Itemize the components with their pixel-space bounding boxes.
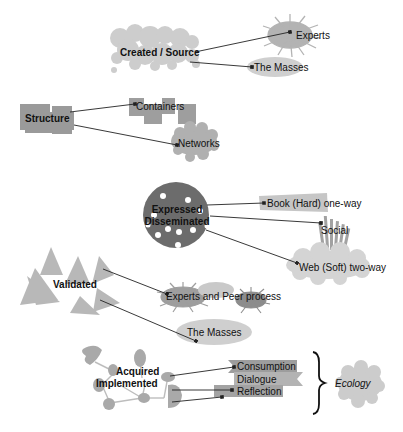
acquired-label: Acquired bbox=[116, 366, 159, 377]
ecology-brace bbox=[313, 352, 325, 414]
reflection-label: Reflection bbox=[237, 386, 281, 397]
web-label: Web (Soft) two-way bbox=[299, 262, 386, 273]
containers-label: Containers bbox=[136, 101, 184, 112]
disseminated-label: Disseminated bbox=[143, 216, 211, 227]
expressed-disseminated-circle bbox=[143, 182, 210, 248]
networks-label: Networks bbox=[178, 138, 220, 149]
ecology-label: Ecology bbox=[335, 378, 371, 389]
structure-label: Structure bbox=[25, 113, 69, 124]
the-masses-label-top: The Masses bbox=[254, 62, 308, 73]
dialogue-label: Dialogue bbox=[237, 374, 276, 385]
experts-peer-label: Experts and Peer process bbox=[166, 291, 281, 302]
social-label: Social bbox=[321, 225, 348, 236]
book-label: Book (Hard) one-way bbox=[267, 198, 361, 209]
created-source-label: Created / Source bbox=[120, 47, 199, 58]
implemented-label: Implemented bbox=[96, 378, 158, 389]
consumption-label: Consumption bbox=[237, 361, 296, 372]
validated-label: Validated bbox=[53, 279, 97, 290]
experts-label: Experts bbox=[296, 30, 330, 41]
diagram-canvas: Created / Source Experts The Masses Stru… bbox=[0, 0, 403, 432]
the-masses-label-validated: The Masses bbox=[187, 327, 241, 338]
expressed-label: Expressed bbox=[146, 204, 208, 215]
